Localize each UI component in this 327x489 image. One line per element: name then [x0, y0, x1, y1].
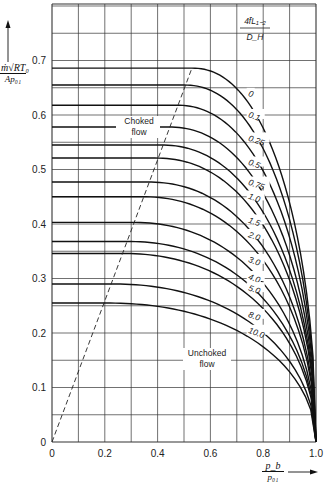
y-tick-label: 0	[40, 437, 46, 448]
x-tick-label: 0.8	[256, 448, 270, 459]
unchoked-flow-label-1: Unchoked	[188, 348, 227, 358]
x-tick-label: 0	[49, 448, 55, 459]
y-tick-label: 0.7	[32, 55, 46, 66]
y-tick-label: 0.4	[32, 219, 46, 230]
x-arrow-head-icon	[310, 470, 318, 475]
unchoked-flow-label-2: flow	[199, 359, 215, 369]
choked-flow-label-2: flow	[131, 127, 147, 137]
parameter-numerator: 4f̄L₁₋₂	[244, 16, 266, 26]
y-tick-label: 0.2	[32, 328, 46, 339]
x-tick-label: 0.6	[203, 448, 217, 459]
y-axis-denominator: Ap₀₁	[0, 74, 26, 84]
y-axis-numerator: ṁ√RT₀	[0, 62, 26, 74]
x-axis-numerator: p_b	[262, 460, 284, 472]
x-axis-label: p_b p₀₁	[262, 460, 284, 482]
x-tick-label: 0.4	[151, 448, 165, 459]
y-tick-label: 0.1	[32, 382, 46, 393]
choked-flow-label-1: Choked	[124, 116, 154, 126]
chart-plot: 00.20.40.60.81.000.10.20.30.40.50.60.7 0…	[0, 0, 327, 489]
x-tick-label: 0.2	[98, 448, 112, 459]
y-tick-label: 0.5	[32, 164, 46, 175]
parameter-label: 4f̄L₁₋₂ D_H	[240, 16, 270, 42]
y-axis-label: ṁ√RT₀ Ap₀₁	[0, 62, 26, 84]
y-tick-label: 0.6	[32, 110, 46, 121]
x-tick-label: 1.0	[309, 448, 323, 459]
y-tick-label: 0.3	[32, 273, 46, 284]
parameter-denominator: D_H	[246, 32, 264, 42]
y-arrow-head-icon	[6, 20, 11, 28]
x-axis-denominator: p₀₁	[262, 472, 284, 482]
